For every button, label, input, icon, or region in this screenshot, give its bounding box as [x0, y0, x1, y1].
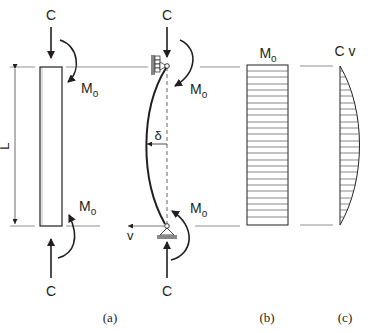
- panel-a: L C Mo Mo C (a): [0, 7, 117, 325]
- column-member: [40, 67, 62, 226]
- moment-label: Mo: [190, 200, 208, 219]
- deflection-label: δ: [154, 128, 161, 143]
- bottom-load-arrow: C: [46, 239, 56, 299]
- load-label: C: [46, 7, 56, 23]
- moment-label: Mo: [81, 80, 99, 99]
- top-load-arrow: C: [46, 7, 56, 58]
- load-label: C: [162, 283, 172, 299]
- panel-b: Mo (b): [247, 45, 288, 325]
- length-dimension: L: [0, 69, 15, 224]
- moment-diagram-title: Mo: [259, 45, 277, 64]
- panel-c: C v (c): [335, 43, 360, 325]
- moment-label: Mo: [190, 81, 208, 100]
- load-label: C: [162, 7, 172, 23]
- top-load-arrow: C: [162, 7, 172, 57]
- top-moment-arrow: Mo: [60, 40, 99, 99]
- deflection-indicator: δ: [147, 128, 167, 144]
- length-label: L: [0, 142, 12, 149]
- caption-b: (b): [259, 310, 274, 325]
- caption-c: (c): [338, 310, 352, 325]
- bottom-load-arrow: C: [162, 242, 172, 299]
- top-moment-arrow: Mo: [175, 40, 208, 100]
- caption-a: (a): [103, 310, 117, 325]
- moment-label: Mo: [79, 198, 97, 217]
- v-label: v: [127, 228, 134, 243]
- top-roller-support: [151, 55, 169, 75]
- secondary-moment-title: C v: [335, 43, 356, 59]
- uniform-moment-diagram: [247, 65, 288, 225]
- bottom-moment-arrow: Mo: [58, 198, 97, 258]
- deflected-column: [146, 68, 166, 224]
- beam-column-diagram: L C Mo Mo C (a): [0, 0, 368, 333]
- load-label: C: [46, 283, 56, 299]
- bottom-moment-arrow: Mo: [171, 200, 208, 260]
- panel-deflected: δ v C Mo Mo C: [127, 7, 208, 299]
- v-direction-arrow: v: [127, 226, 164, 243]
